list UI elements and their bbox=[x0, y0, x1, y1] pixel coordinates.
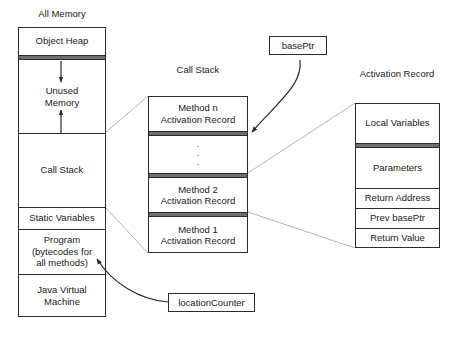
all-memory-section-static-variables: Static Variables bbox=[18, 207, 106, 229]
baseptr-tag: basePtr bbox=[269, 36, 327, 55]
method-2-label-line2: Activation Record bbox=[161, 195, 235, 207]
jvm-label-line1: Java Virtual bbox=[37, 284, 86, 296]
parameters-label: Parameters bbox=[373, 162, 422, 174]
all-memory-section-jvm: Java Virtual Machine bbox=[18, 274, 106, 317]
ellipsis-dot-2: · bbox=[197, 153, 200, 157]
return-value-label: Return Value bbox=[370, 232, 425, 244]
method-n-label-line2: Activation Record bbox=[161, 114, 235, 126]
method-2-label-line1: Method 2 bbox=[178, 184, 218, 196]
activation-record-field-return-address: Return Address bbox=[355, 188, 440, 208]
baseptr-tag-label: basePtr bbox=[282, 40, 315, 51]
static-variables-label: Static Variables bbox=[29, 212, 94, 224]
activation-record-field-parameters: Parameters bbox=[355, 148, 440, 188]
call-stack-region-label: Call Stack bbox=[41, 164, 84, 176]
program-label-line1: Program bbox=[44, 234, 80, 246]
return-address-label: Return Address bbox=[365, 192, 430, 204]
baseptr-arrow bbox=[252, 60, 300, 132]
locationcounter-tag-label: locationCounter bbox=[178, 297, 245, 308]
all-memory-section-unused-memory: Unused Memory bbox=[18, 60, 106, 133]
object-heap-label: Object Heap bbox=[36, 35, 89, 47]
memory-layout-diagram: All Memory Call Stack Activation Record … bbox=[0, 0, 455, 344]
local-variables-label: Local Variables bbox=[365, 117, 429, 129]
expansion-line-callstack-bottom bbox=[105, 207, 148, 253]
jvm-label-line2: Machine bbox=[44, 296, 80, 308]
ellipsis-dot-1: · bbox=[197, 144, 200, 148]
locationcounter-arrow bbox=[97, 259, 168, 302]
unused-memory-label-line1: Unused bbox=[46, 85, 79, 97]
prev-baseptr-label: Prev basePtr bbox=[370, 212, 425, 224]
title-activation-record: Activation Record bbox=[340, 68, 454, 79]
unused-memory-label-line2: Memory bbox=[45, 97, 79, 109]
all-memory-section-program: Program (bytecodes for all methods) bbox=[18, 229, 106, 274]
activation-record-field-local-variables: Local Variables bbox=[355, 103, 440, 143]
activation-record-field-return-value: Return Value bbox=[355, 228, 440, 248]
method-1-label-line1: Method 1 bbox=[178, 224, 218, 236]
method-n-label-line1: Method n bbox=[178, 102, 218, 114]
activation-record-field-prev-baseptr: Prev basePtr bbox=[355, 208, 440, 228]
method-1-label-line2: Activation Record bbox=[161, 235, 235, 247]
title-call-stack: Call Stack bbox=[148, 64, 248, 75]
all-memory-section-object-heap: Object Heap bbox=[18, 27, 106, 55]
all-memory-section-call-stack: Call Stack bbox=[18, 133, 106, 207]
expansion-line-callstack-top bbox=[105, 96, 148, 133]
program-label-line3: all methods) bbox=[36, 257, 88, 269]
expansion-line-activation-bottom bbox=[248, 212, 355, 248]
call-stack-frame-method-n: Method n Activation Record bbox=[148, 96, 248, 131]
program-label-line2: (bytecodes for bbox=[32, 246, 92, 258]
ellipsis-dot-3: · bbox=[197, 162, 200, 166]
locationcounter-tag: locationCounter bbox=[168, 293, 255, 312]
vertical-ellipsis-icon: · · · bbox=[197, 144, 200, 166]
call-stack-frame-method-2: Method 2 Activation Record bbox=[148, 178, 248, 212]
expansion-line-activation-top bbox=[248, 103, 355, 173]
call-stack-frame-method-1: Method 1 Activation Record bbox=[148, 217, 248, 253]
call-stack-frames-omitted: · · · bbox=[148, 136, 248, 173]
title-all-memory: All Memory bbox=[18, 8, 106, 19]
